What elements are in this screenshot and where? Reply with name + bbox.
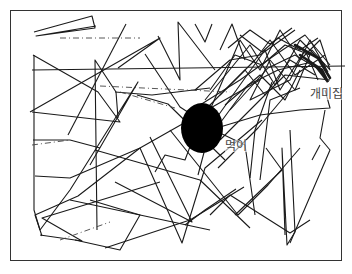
trajectory-paths (0, 0, 352, 274)
food-label: 먹이 (225, 140, 247, 152)
food-blob (181, 103, 223, 153)
nest-label: 개미집 (310, 88, 343, 100)
ant-trajectory-figure: 개미집 먹이 (0, 0, 352, 274)
